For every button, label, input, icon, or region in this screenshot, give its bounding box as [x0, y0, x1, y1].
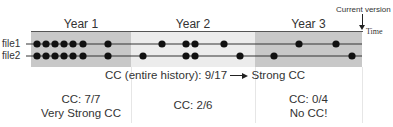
- commit-dot: [270, 52, 277, 59]
- commit-dot: [51, 40, 58, 47]
- commit-dot: [182, 40, 189, 47]
- commit-dot: [332, 40, 339, 47]
- year3-cc: CC: 0/4 No CC!: [255, 92, 362, 120]
- commit-dot: [33, 40, 40, 47]
- year1-cc-value: CC: 7/7: [31, 92, 131, 106]
- year1-cc: CC: 7/7 Very Strong CC: [31, 92, 131, 120]
- commit-dot: [42, 52, 49, 59]
- commit-dot: [42, 40, 49, 47]
- commit-dot: [69, 40, 76, 47]
- entire-history-result: Strong CC: [251, 69, 305, 81]
- commit-dot: [182, 52, 189, 59]
- separator-right: [362, 67, 363, 123]
- commit-dot: [104, 40, 111, 47]
- commit-dot: [79, 40, 86, 47]
- year3-cc-value: CC: 0/4: [255, 92, 362, 106]
- commit-dot: [236, 52, 243, 59]
- year3-cc-verdict: No CC!: [255, 106, 362, 120]
- year1-cc-verdict: Very Strong CC: [31, 106, 131, 120]
- entire-history-cc: CC (entire history): 9/17 Strong CC: [105, 68, 335, 82]
- commit-dot: [348, 52, 355, 59]
- year2-cc-value: CC: 2/6: [131, 98, 255, 112]
- commit-dot: [60, 52, 67, 59]
- commit-dot: [60, 40, 67, 47]
- commit-dot: [139, 52, 146, 59]
- commit-dot: [33, 52, 40, 59]
- commit-dot: [51, 52, 58, 59]
- year2-cc: CC: 2/6: [131, 98, 255, 112]
- result-arrow-icon: [230, 73, 248, 79]
- commit-dot: [191, 40, 198, 47]
- commit-dot: [220, 40, 227, 47]
- commit-dot: [295, 40, 302, 47]
- commit-dot: [79, 52, 86, 59]
- commit-dot: [158, 40, 165, 47]
- commit-dot: [191, 52, 198, 59]
- entire-history-value: CC (entire history): 9/17: [105, 69, 227, 81]
- commit-dot: [104, 52, 111, 59]
- commit-dot: [69, 52, 76, 59]
